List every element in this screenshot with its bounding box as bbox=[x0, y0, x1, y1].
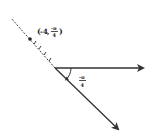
svg-text:4: 4 bbox=[53, 32, 57, 38]
angle-label: -π 4 bbox=[79, 74, 86, 88]
negative-radius-extension bbox=[11, 18, 55, 68]
polar-diagram: ( -4 , -π 4 ) -π 4 bbox=[0, 0, 155, 139]
plotted-point bbox=[28, 37, 32, 41]
svg-text:,: , bbox=[47, 27, 49, 36]
svg-text:-π: -π bbox=[51, 25, 57, 31]
point-label: ( -4 , -π 4 ) bbox=[37, 25, 63, 38]
svg-text:-π: -π bbox=[79, 74, 85, 80]
terminal-side-arrow bbox=[55, 68, 118, 129]
svg-text:4: 4 bbox=[81, 82, 85, 88]
svg-text:): ) bbox=[59, 26, 63, 36]
unit-ticks bbox=[34, 41, 51, 61]
